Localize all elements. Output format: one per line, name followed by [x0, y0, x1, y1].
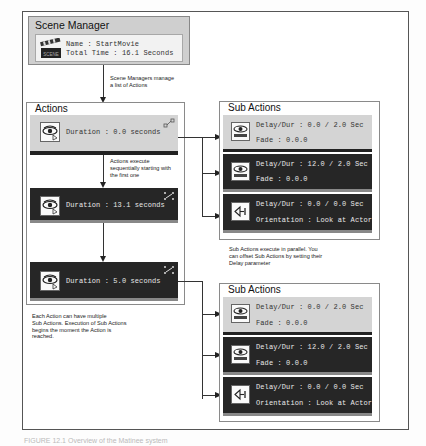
connector-action-3-to-subs	[178, 281, 203, 282]
link-expand-icon[interactable]	[163, 265, 175, 275]
connector-trunk	[202, 137, 203, 217]
clapperboard-icon: SCENE	[40, 38, 62, 60]
connector-sm-to-actions	[103, 65, 104, 98]
svg-text:SCENE: SCENE	[43, 52, 59, 57]
sub-action-card[interactable]: Delay/Dur : 12.0 / 2.0 Sec Fade : 0.0.0	[223, 337, 372, 375]
sub-action-parameter: Fade : 0.0.0	[256, 175, 308, 183]
note-sub-actions-parallel: Sub Actions execute in parallel. You can…	[229, 246, 322, 266]
note-scene-manager: Scene Managers manage a list of Actions	[110, 75, 174, 89]
sub-action-delay-duration: Delay/Dur : 0.0 / 0.0 Sec	[256, 200, 364, 208]
sub-action-card[interactable]: Delay/Dur : 0.0 / 2.0 Sec Fade : 0.0.0	[223, 115, 372, 152]
scene-manager-title: Scene Manager	[35, 19, 109, 31]
sub-action-card[interactable]: Delay/Dur : 12.0 / 2.0 Sec Fade : 0.0.0	[223, 154, 372, 192]
link-expand-icon[interactable]	[163, 191, 175, 201]
sub-action-delay-duration: Delay/Dur : 12.0 / 2.0 Sec	[256, 343, 368, 351]
action-duration: Duration : 0.0 seconds	[66, 128, 161, 136]
scene-manager-details: SCENE Name : StartMovie Total Time : 16.…	[35, 34, 183, 62]
fade-eye-icon	[231, 162, 250, 181]
camera-eye-icon	[40, 122, 60, 142]
action-card[interactable]: Duration : 5.0 seconds	[30, 262, 178, 301]
action-card[interactable]: Duration : 13.1 seconds	[30, 188, 178, 223]
sub-action-parameter: Fade : 0.0.0	[256, 319, 308, 327]
sub-actions-title: Sub Actions	[228, 284, 281, 295]
action-duration: Duration : 5.0 seconds	[66, 277, 161, 285]
sub-action-parameter: Fade : 0.0.0	[256, 136, 308, 144]
fade-eye-icon	[231, 345, 250, 364]
actions-title: Actions	[35, 103, 68, 114]
action-duration: Duration : 13.1 seconds	[66, 201, 165, 209]
sub-action-delay-duration: Delay/Dur : 0.0 / 2.0 Sec	[256, 303, 364, 311]
sub-action-parameter: Fade : 0.0.0	[256, 359, 308, 367]
connector-action-2-to-3	[103, 223, 104, 257]
scene-manager-box: Scene Manager SCENE Name : StartMovie To…	[28, 16, 190, 65]
action-card[interactable]: Duration : 0.0 seconds	[30, 115, 178, 155]
fade-eye-icon	[231, 122, 250, 141]
sub-action-delay-duration: Delay/Dur : 0.0 / 2.0 Sec	[256, 121, 364, 129]
note-actions-sequential: Actions execute sequentially starting wi…	[110, 158, 171, 178]
scene-total-time: Total Time : 16.1 Seconds	[66, 49, 174, 57]
sub-action-parameter: Orientation : Look at Actor	[256, 216, 372, 224]
note-multiple-sub-actions: Each Action can have multiple Sub Action…	[32, 313, 127, 340]
orientation-arrow-icon	[231, 385, 250, 404]
fade-eye-icon	[231, 304, 250, 323]
sub-actions-title: Sub Actions	[228, 102, 281, 113]
sub-action-card[interactable]: Delay/Dur : 0.0 / 0.0 Sec Orientation : …	[223, 194, 372, 233]
link-collapsed-icon[interactable]	[163, 118, 175, 128]
scene-name: Name : StartMovie	[66, 40, 139, 48]
sub-action-card[interactable]: Delay/Dur : 0.0 / 0.0 Sec Orientation : …	[223, 377, 372, 416]
sub-action-delay-duration: Delay/Dur : 12.0 / 2.0 Sec	[256, 160, 368, 168]
camera-eye-icon	[40, 196, 60, 216]
figure-caption: FIGURE 12.1 Overview of the Matinee syst…	[24, 437, 168, 444]
orientation-arrow-icon	[231, 202, 250, 221]
connector-action-1-to-2	[103, 155, 104, 183]
sub-action-parameter: Orientation : Look at Actor	[256, 399, 372, 407]
camera-eye-icon	[40, 271, 60, 291]
connector-action-1-to-subs	[178, 137, 203, 138]
sub-action-card[interactable]: Delay/Dur : 0.0 / 2.0 Sec Fade : 0.0.0	[223, 297, 372, 335]
connector-trunk	[202, 281, 203, 399]
sub-action-delay-duration: Delay/Dur : 0.0 / 0.0 Sec	[256, 383, 364, 391]
